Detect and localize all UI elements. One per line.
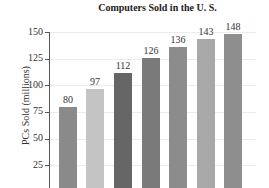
bar-value-label: 97 bbox=[80, 76, 110, 87]
bar-value-label: 80 bbox=[53, 94, 83, 105]
bar bbox=[224, 34, 242, 188]
tick-label-25: 25 bbox=[14, 159, 43, 170]
bar bbox=[86, 89, 104, 188]
bar-value-label: 136 bbox=[163, 34, 193, 45]
bar-value-label: 143 bbox=[191, 26, 221, 37]
tick-label-150: 150 bbox=[14, 26, 43, 37]
bar-value-label: 148 bbox=[218, 21, 248, 32]
tick-label-50: 50 bbox=[14, 132, 43, 143]
bar bbox=[197, 39, 215, 188]
bar bbox=[169, 47, 187, 188]
gridline bbox=[50, 32, 256, 33]
tick-label-125: 125 bbox=[14, 52, 43, 63]
bar bbox=[114, 73, 132, 188]
y-axis-line bbox=[49, 32, 50, 188]
bar-value-label: 126 bbox=[136, 45, 166, 56]
bar bbox=[59, 107, 77, 188]
chart-title: Computers Sold in the U. S. bbox=[50, 2, 265, 13]
bar-value-label: 112 bbox=[108, 60, 138, 71]
tick-label-100: 100 bbox=[14, 79, 43, 90]
bar bbox=[142, 58, 160, 188]
tick-label-75: 75 bbox=[14, 105, 43, 116]
